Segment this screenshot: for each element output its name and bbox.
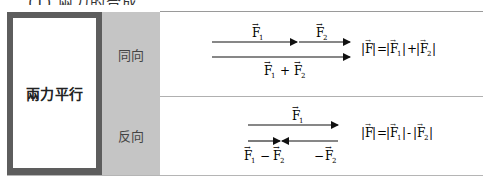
- svg-text:−: −: [314, 149, 324, 163]
- svg-text:2: 2: [301, 72, 305, 80]
- formula-sum: | F → | = | F 1 → | + | F 2 → |: [361, 37, 436, 58]
- svg-text:+: +: [280, 64, 290, 78]
- svg-text:1: 1: [397, 50, 401, 58]
- svg-text:1: 1: [259, 34, 263, 42]
- svg-text:→: →: [365, 37, 371, 45]
- svg-text:→: →: [325, 143, 332, 152]
- svg-text:→: →: [252, 20, 259, 29]
- svg-text:→: →: [292, 103, 299, 112]
- svg-text:2: 2: [323, 34, 327, 42]
- opposite-direction-diagram: F 1 → F 1 → − F 2 → − F 2 →: [244, 103, 433, 165]
- svg-text:|: |: [372, 126, 376, 140]
- resultant-label: F 1 → − F 2 →: [244, 143, 284, 165]
- label-same-direction: 同向: [102, 12, 160, 96]
- svg-text:|: |: [402, 126, 406, 140]
- svg-text:→: →: [390, 121, 396, 129]
- svg-text:|: |: [372, 42, 376, 56]
- svg-text:1: 1: [251, 157, 255, 165]
- svg-text:2: 2: [424, 134, 428, 142]
- svg-text:→: →: [294, 58, 301, 67]
- svg-text:|: |: [402, 42, 406, 56]
- resultant-label: F 1 → + F 2 →: [264, 58, 305, 80]
- svg-text:→: →: [264, 58, 271, 67]
- svg-text:→: →: [365, 121, 371, 129]
- vector-f1-label: F 1 →: [252, 20, 263, 42]
- row-header-panel: 兩力平行: [13, 18, 96, 168]
- svg-text:-: -: [407, 126, 411, 140]
- vector-neg-f2-label: − F 2 →: [314, 143, 336, 165]
- svg-text:→: →: [273, 143, 280, 152]
- svg-text:1: 1: [299, 117, 303, 125]
- direction-label-column: 同向 反向: [102, 12, 160, 175]
- svg-text:−: −: [260, 149, 270, 163]
- vector-f1-label: F 1 →: [292, 103, 303, 125]
- svg-text:2: 2: [332, 157, 336, 165]
- table-bottom-border: [7, 175, 483, 176]
- svg-text:|: |: [429, 126, 433, 140]
- row-header-label: 兩力平行: [26, 83, 84, 103]
- svg-text:→: →: [417, 121, 423, 129]
- label-opposite-direction: 反向: [102, 96, 160, 175]
- svg-text:→: →: [390, 37, 396, 45]
- svg-text:|: |: [432, 42, 436, 56]
- vector-f2-label: F 2 →: [316, 20, 327, 42]
- svg-text:→: →: [244, 143, 251, 152]
- svg-text:→: →: [420, 37, 426, 45]
- formula-difference: | F → | = | F 1 → | - | F 2 → |: [361, 121, 433, 142]
- diagram-area: F 1 → F 2 → F 1 → + F 2 → |: [160, 12, 483, 175]
- row-header-frame: 兩力平行: [7, 12, 102, 175]
- same-direction-diagram: F 1 → F 2 → F 1 → + F 2 → |: [212, 20, 436, 80]
- svg-text:1: 1: [397, 134, 401, 142]
- svg-text:2: 2: [280, 157, 284, 165]
- svg-text:2: 2: [427, 50, 431, 58]
- section-title: (1) 兩力的合成: [28, 0, 138, 5]
- svg-text:1: 1: [271, 72, 275, 80]
- svg-text:→: →: [316, 20, 323, 29]
